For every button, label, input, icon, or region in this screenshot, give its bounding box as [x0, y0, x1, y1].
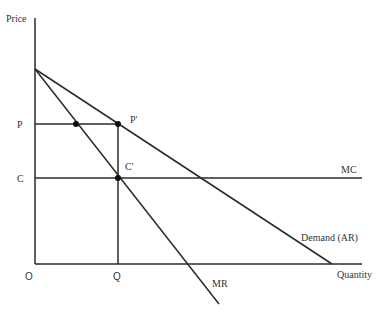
p-prime-label: P': [130, 114, 138, 125]
demand-curve-label: Demand (AR): [301, 232, 358, 244]
quantity-axis-label: Quantity: [337, 269, 372, 280]
cost-c-label: C: [17, 173, 24, 184]
mc-curve-label: MC: [341, 164, 357, 175]
mr-curve: [35, 69, 219, 304]
monopoly-diagram: Price P C O Q P' C' MC Demand (AR) Quant…: [0, 0, 380, 319]
mr-curve-label: MR: [212, 278, 228, 289]
price-axis-label: Price: [6, 13, 27, 24]
quantity-q-label: Q: [113, 271, 121, 282]
c-prime-point: [115, 175, 121, 181]
price-p-label: P: [17, 119, 23, 130]
c-prime-label: C': [125, 161, 134, 172]
mr-price-intersection-point: [73, 121, 79, 127]
p-prime-point: [115, 121, 121, 127]
origin-label: O: [25, 271, 33, 282]
demand-curve: [35, 69, 332, 264]
